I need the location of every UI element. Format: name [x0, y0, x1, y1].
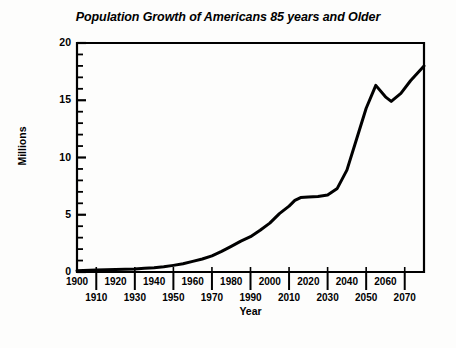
x-tick-label-top: 2020	[289, 276, 327, 287]
x-tick-label-bottom: 2070	[386, 292, 424, 303]
y-tick-label: 5	[37, 208, 71, 220]
x-tick-label-bottom: 1990	[232, 292, 270, 303]
x-tick-label-top: 1980	[212, 276, 250, 287]
x-tick-label-bottom: 2010	[270, 292, 308, 303]
x-tick-label-top: 2000	[251, 276, 289, 287]
data-line-population-85plus	[77, 66, 424, 271]
x-tick-label-top: 1960	[174, 276, 212, 287]
x-tick-label-top: 1940	[135, 276, 173, 287]
x-tick-label-top: 1900	[58, 276, 96, 287]
x-tick-label-top: 2060	[366, 276, 404, 287]
x-tick-label-bottom: 1910	[77, 292, 115, 303]
x-tick-label-top: 1920	[97, 276, 135, 287]
data-series-group	[77, 66, 424, 271]
chart-figure: Population Growth of Americans 85 years …	[0, 0, 456, 348]
x-tick-label-bottom: 1970	[193, 292, 231, 303]
y-tick-label: 15	[37, 93, 71, 105]
y-tick-label: 20	[37, 36, 71, 48]
y-tick-label: 10	[37, 151, 71, 163]
x-tick-label-bottom: 2030	[309, 292, 347, 303]
x-tick-label-bottom: 2050	[347, 292, 385, 303]
x-tick-label-top: 2040	[328, 276, 366, 287]
x-tick-label-bottom: 1950	[154, 292, 192, 303]
x-tick-label-bottom: 1930	[116, 292, 154, 303]
